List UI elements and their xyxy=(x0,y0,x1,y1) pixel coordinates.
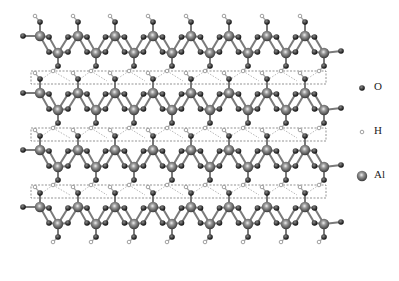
hydroxyl-oxygen xyxy=(112,190,118,196)
hydrogen-atom xyxy=(279,240,283,244)
oxygen-atom xyxy=(122,49,128,55)
hydrogen-atom xyxy=(203,183,207,187)
hydroxyl-oxygen xyxy=(207,177,213,183)
oxygen-atom xyxy=(84,148,90,154)
hydroxyl-oxygen xyxy=(112,76,118,82)
aluminum-atom xyxy=(262,202,272,212)
oxygen-atom xyxy=(236,106,242,112)
oxygen-atom xyxy=(65,49,71,55)
oxygen-atom xyxy=(65,205,71,211)
hydroxyl-oxygen xyxy=(188,133,194,139)
oxygen-atom xyxy=(65,220,71,226)
hydroxyl-oxygen xyxy=(188,19,194,25)
hydrogen-atom xyxy=(298,14,302,18)
hydrogen-atom xyxy=(317,69,321,73)
aluminum-atom xyxy=(91,219,101,229)
aluminum-atom xyxy=(243,219,253,229)
hydrogen-atom xyxy=(127,240,131,244)
hydroxyl-oxygen xyxy=(302,19,308,25)
oxygen-atom xyxy=(293,205,299,211)
aluminum-atom xyxy=(91,162,101,172)
aluminum-atom xyxy=(129,48,139,58)
oxygen-atom xyxy=(198,106,204,112)
aluminum-atom xyxy=(167,162,177,172)
hydroxyl-oxygen xyxy=(169,177,175,183)
oxygen-atom xyxy=(255,106,261,112)
oxygen-atom xyxy=(84,220,90,226)
aluminum-atom xyxy=(224,145,234,155)
hydrogen-atom xyxy=(71,128,75,132)
aluminum-atom xyxy=(110,88,120,98)
oxygen-atom xyxy=(122,106,128,112)
oxygen-atom xyxy=(274,205,280,211)
aluminum-atom xyxy=(262,145,272,155)
hydroxyl-oxygen xyxy=(245,234,251,240)
hydrogen-atom xyxy=(317,126,321,130)
aluminum-atom xyxy=(319,162,329,172)
oxygen-atom xyxy=(84,205,90,211)
oxygen-atom xyxy=(274,106,280,112)
oxygen-atom xyxy=(160,163,166,169)
oxygen-atom xyxy=(179,205,185,211)
legend-hydrogen-icon xyxy=(360,130,364,134)
oxygen-atom xyxy=(293,91,299,97)
hydroxyl-oxygen xyxy=(302,190,308,196)
hydroxyl-oxygen xyxy=(112,133,118,139)
oxygen-atom xyxy=(103,220,109,226)
oxygen-atom xyxy=(103,91,109,97)
hydroxyl-oxygen xyxy=(283,120,289,126)
oxygen-atom xyxy=(122,91,128,97)
oxygen-atom xyxy=(274,148,280,154)
oxygen-atom xyxy=(46,91,52,97)
hydrogen-atom xyxy=(317,183,321,187)
oxygen-atom xyxy=(160,148,166,154)
aluminum-atom xyxy=(73,145,83,155)
aluminum-atom xyxy=(148,31,158,41)
aluminum-atom xyxy=(300,31,310,41)
hydroxyl-oxygen xyxy=(55,63,61,69)
aluminum-atom xyxy=(167,105,177,115)
aluminum-atom xyxy=(53,48,63,58)
oxygen-atom xyxy=(65,34,71,40)
hydroxyl-oxygen xyxy=(245,120,251,126)
oxygen-atom xyxy=(338,105,344,111)
aluminum-atom xyxy=(186,31,196,41)
aluminum-atom xyxy=(35,31,45,41)
hydrogen-atom xyxy=(165,126,169,130)
oxygen-atom xyxy=(255,220,261,226)
legend-aluminum-icon xyxy=(357,171,367,181)
oxygen-atom xyxy=(20,90,26,96)
aluminum-atom xyxy=(262,88,272,98)
oxygen-atom xyxy=(236,205,242,211)
oxygen-atom xyxy=(160,49,166,55)
hydroxyl-oxygen xyxy=(169,120,175,126)
oxygen-atom xyxy=(255,49,261,55)
oxygen-atom xyxy=(46,49,52,55)
oxygen-atom xyxy=(179,49,185,55)
aluminum-atom xyxy=(73,31,83,41)
oxygen-atom xyxy=(338,48,344,54)
aluminum-atom xyxy=(91,48,101,58)
oxygen-atom xyxy=(217,205,223,211)
hydrogen-atom xyxy=(184,14,188,18)
oxygen-atom xyxy=(20,33,26,39)
hydrogen-atom xyxy=(71,71,75,75)
hydroxyl-oxygen xyxy=(302,133,308,139)
oxygen-atom xyxy=(236,220,242,226)
oxygen-atom xyxy=(103,34,109,40)
hydroxyl-oxygen xyxy=(283,63,289,69)
aluminum-atom xyxy=(53,162,63,172)
hydroxyl-oxygen xyxy=(75,76,81,82)
oxygen-atom xyxy=(274,49,280,55)
hydroxyl-oxygen xyxy=(150,133,156,139)
hydroxyl-oxygen xyxy=(245,63,251,69)
oxygen-atom xyxy=(293,220,299,226)
hydrogen-atom xyxy=(203,240,207,244)
hydroxyl-oxygen xyxy=(37,133,43,139)
oxygen-atom xyxy=(46,106,52,112)
hydrogen-atom xyxy=(222,185,226,189)
hydroxyl-oxygen xyxy=(226,19,232,25)
oxygen-atom xyxy=(122,163,128,169)
hydrogen-atom xyxy=(146,71,150,75)
oxygen-atom xyxy=(84,91,90,97)
